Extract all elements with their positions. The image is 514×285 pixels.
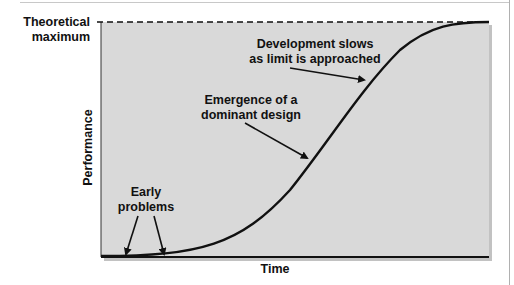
- slows-line1: Development slows: [235, 37, 395, 52]
- theoretical-maximum-label: Theoretical maximum: [8, 15, 90, 45]
- early-line2: problems: [116, 200, 176, 215]
- theoretical-label-line2: maximum: [8, 30, 90, 45]
- dominant-line1: Emergence of a: [186, 93, 316, 108]
- early-problems-annotation: Early problems: [116, 185, 176, 215]
- x-axis-label: Time: [261, 262, 290, 277]
- slows-line2: as limit is approached: [235, 52, 395, 67]
- theoretical-label-line1: Theoretical: [8, 15, 90, 30]
- development-slows-annotation: Development slows as limit is approached: [235, 37, 395, 67]
- dominant-design-annotation: Emergence of a dominant design: [186, 93, 316, 123]
- y-axis-label: Performance: [81, 109, 96, 185]
- early-line1: Early: [116, 185, 176, 200]
- dominant-line2: dominant design: [186, 108, 316, 123]
